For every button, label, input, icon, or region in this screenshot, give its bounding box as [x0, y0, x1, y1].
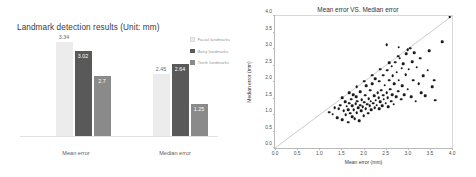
scatter-x-tick-label: 1.0: [316, 151, 323, 156]
scatter-point: [336, 116, 339, 119]
scatter-y-tick-mark: [273, 114, 275, 115]
bar-category-mean-error: Mean error: [20, 150, 120, 162]
scatter-point: [391, 75, 394, 78]
scatter-point: [358, 120, 361, 123]
scatter-point: [376, 91, 379, 94]
scatter-point: [359, 91, 362, 94]
bar-chart-title: Landmark detection results (Unit: mm): [17, 23, 159, 32]
scatter-point: [395, 96, 398, 99]
scatter-point: [410, 96, 413, 99]
scatter-chart-title: Mean error VS. Median error: [240, 6, 476, 13]
scatter-point: [422, 75, 425, 78]
figure-container: Landmark detection results (Unit: mm) 3.…: [0, 0, 476, 177]
scatter-y-tick-label: 0.0: [265, 141, 272, 146]
scatter-x-axis-label: Mean error (mm): [274, 159, 453, 165]
scatter-point: [348, 102, 351, 105]
scatter-point: [385, 91, 388, 94]
scatter-y-tick-label: 0.5: [265, 124, 272, 129]
scatter-x-tick-label: 1.5: [338, 151, 345, 156]
bar-mean-teeth[interactable]: 2.7: [94, 76, 111, 136]
scatter-point: [393, 82, 396, 85]
scatter-point: [365, 85, 368, 88]
scatter-x-tick-label: 3.5: [427, 151, 434, 156]
scatter-point: [404, 73, 407, 76]
bar-median-facial[interactable]: 2.45: [153, 74, 170, 136]
scatter-point: [382, 74, 385, 77]
scatter-point: [347, 108, 350, 111]
scatter-point: [371, 82, 374, 85]
scatter-point: [364, 94, 367, 97]
scatter-point: [412, 79, 415, 82]
scatter-point: [433, 79, 436, 82]
scatter-point: [382, 94, 385, 97]
scatter-point: [388, 62, 391, 65]
scatter-point: [345, 114, 348, 117]
bar-group-mean-error: 3.34 3.02 2.7: [20, 38, 120, 136]
bar-value-label: 1.25: [194, 106, 204, 112]
scatter-y-tick-label: 2.0: [265, 75, 272, 80]
scatter-point: [391, 65, 394, 68]
scatter-point: [369, 89, 372, 92]
scatter-point: [402, 63, 405, 66]
scatter-chart-panel: Mean error VS. Median error Median error…: [240, 0, 476, 177]
bar-category-labels: Mean error Median error: [20, 150, 220, 162]
bar-value-label: 2.64: [175, 66, 185, 72]
bar-median-bony[interactable]: 2.64: [172, 64, 189, 136]
scatter-point: [362, 115, 365, 118]
scatter-point: [342, 110, 345, 113]
scatter-y-tick-label: 2.5: [265, 58, 272, 63]
scatter-point: [344, 101, 347, 104]
scatter-x-tick-label: 0.0: [272, 151, 279, 156]
legend-item-facial[interactable]: Facial landmarks: [190, 37, 246, 42]
legend-swatch-icon: [190, 37, 195, 42]
scatter-point: [353, 118, 356, 121]
bar-median-teeth[interactable]: 1.25: [191, 104, 208, 136]
scatter-point: [357, 106, 360, 109]
scatter-point: [392, 103, 395, 106]
scatter-y-tick-mark: [273, 131, 275, 132]
scatter-point: [351, 104, 354, 107]
scatter-point: [406, 48, 409, 51]
bar-mean-facial[interactable]: 3.34: [56, 42, 73, 136]
scatter-x-tick-mark: [319, 148, 320, 150]
scatter-point: [415, 66, 418, 69]
scatter-x-tick-mark: [275, 148, 276, 150]
legend-item-teeth[interactable]: Teeth landmarks: [190, 60, 246, 65]
scatter-point: [380, 89, 383, 92]
scatter-point: [387, 105, 390, 108]
scatter-y-tick-label: 3.0: [265, 42, 272, 47]
scatter-point: [375, 104, 378, 107]
bar-chart-baseline: [20, 136, 218, 137]
scatter-point: [368, 104, 371, 107]
scatter-point: [426, 69, 429, 72]
scatter-point: [411, 60, 414, 63]
scatter-point: [386, 69, 389, 72]
bar-mean-bony[interactable]: 3.02: [75, 51, 92, 136]
scatter-point: [388, 79, 391, 82]
scatter-point: [355, 96, 358, 99]
legend-item-bony[interactable]: Bony landmarks: [190, 49, 246, 54]
scatter-point: [363, 80, 366, 83]
scatter-point: [406, 88, 409, 91]
scatter-point: [424, 95, 427, 98]
legend-swatch-icon: [190, 60, 195, 65]
bar-value-label: 2.7: [98, 78, 105, 84]
scatter-point: [341, 97, 344, 100]
bar-value-label: 2.45: [156, 66, 166, 72]
scatter-x-tick-mark: [364, 148, 365, 150]
scatter-point: [405, 53, 408, 56]
scatter-y-tick-mark: [273, 81, 275, 82]
scatter-point: [407, 68, 410, 71]
scatter-point: [391, 93, 394, 96]
scatter-point: [431, 86, 434, 89]
scatter-point: [345, 105, 348, 108]
scatter-point: [378, 80, 381, 83]
scatter-point: [441, 40, 444, 43]
scatter-point: [341, 118, 344, 121]
scatter-point: [389, 88, 392, 91]
scatter-point: [398, 46, 401, 49]
scatter-point: [413, 52, 416, 55]
scatter-point: [420, 91, 423, 94]
scatter-point: [333, 106, 336, 109]
legend-swatch-icon: [190, 49, 195, 54]
